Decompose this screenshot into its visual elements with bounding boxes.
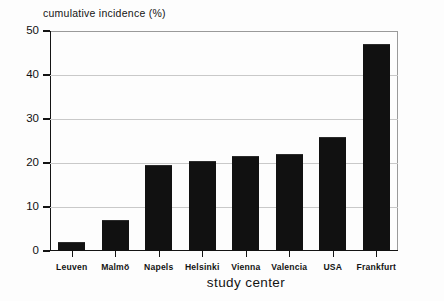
- plot-area: 01020304050: [50, 31, 398, 251]
- bar: [363, 44, 390, 251]
- bar: [276, 154, 303, 251]
- y-tick-label: 20: [26, 157, 39, 169]
- bar: [58, 242, 85, 251]
- x-tick: [72, 251, 73, 257]
- y-tick-label: 40: [26, 69, 39, 81]
- bar: [189, 161, 216, 251]
- x-tick-label: Vienna: [231, 262, 260, 272]
- y-tick: [43, 206, 50, 207]
- plot-frame-right: [397, 31, 398, 251]
- plot-frame-top: [50, 31, 398, 32]
- x-tick: [333, 251, 334, 257]
- x-tick: [289, 251, 290, 257]
- bar: [319, 137, 346, 251]
- x-axis-title-text: study center: [207, 275, 285, 290]
- y-tick: [43, 250, 50, 251]
- y-tick-label: 30: [26, 113, 39, 125]
- x-tick: [202, 251, 203, 257]
- bar: [102, 220, 129, 251]
- y-tick: [43, 74, 50, 75]
- bar: [145, 165, 172, 251]
- x-tick-label: Frankfurt: [356, 262, 396, 272]
- x-tick-label: Malmö: [101, 262, 129, 272]
- x-tick: [376, 251, 377, 257]
- y-axis-line: [50, 31, 51, 251]
- x-tick-label: Leuven: [56, 262, 87, 272]
- gridline: [50, 119, 398, 120]
- x-axis-title: study center: [0, 275, 444, 290]
- x-tick-label: Valencia: [271, 262, 307, 272]
- y-tick: [43, 118, 50, 119]
- x-tick-label: Napels: [144, 262, 173, 272]
- bar: [232, 156, 259, 251]
- x-tick: [246, 251, 247, 257]
- y-tick-label: 10: [26, 201, 39, 213]
- y-tick-label: 50: [26, 25, 39, 37]
- y-tick: [43, 162, 50, 163]
- y-tick: [43, 30, 50, 31]
- y-tick-label: 0: [33, 245, 39, 257]
- x-tick-label: USA: [323, 262, 342, 272]
- x-tick: [159, 251, 160, 257]
- bar-chart-figure: cumulative incidence (%) 01020304050 Leu…: [0, 0, 444, 301]
- x-tick: [115, 251, 116, 257]
- y-axis-title: cumulative incidence (%): [43, 7, 166, 19]
- x-tick-label: Helsinki: [185, 262, 220, 272]
- gridline: [50, 75, 398, 76]
